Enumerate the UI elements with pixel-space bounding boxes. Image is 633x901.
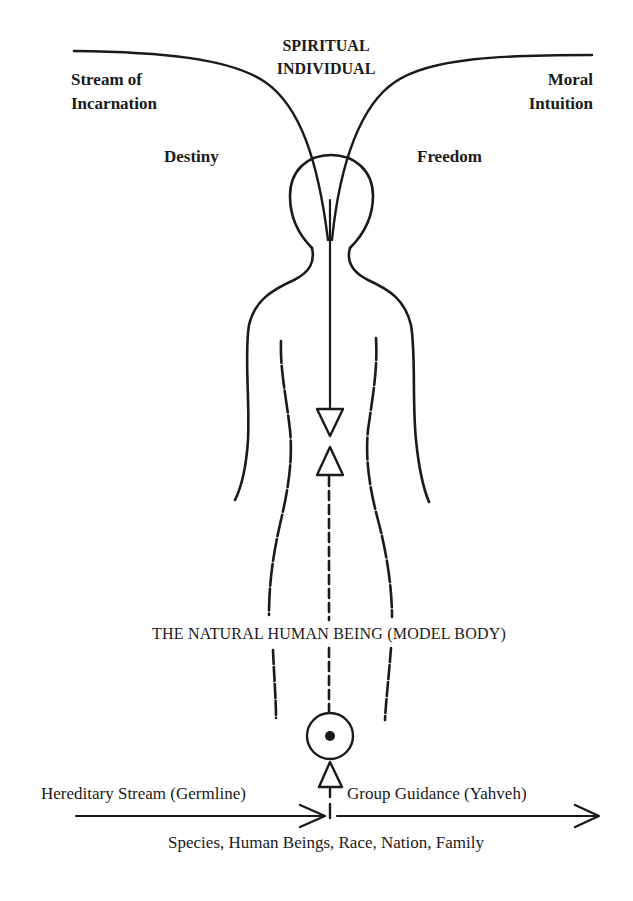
- left-inner-torso-line: [269, 341, 291, 615]
- right-shoulder-arm-outline: [349, 248, 429, 502]
- down-triangle-icon: [317, 409, 343, 436]
- freedom-label: Freedom: [417, 147, 482, 166]
- stream-of-incarnation-line2: Incarnation: [71, 94, 158, 113]
- right-inner-torso-line: [367, 338, 392, 617]
- bottom-caption: Species, Human Beings, Race, Nation, Fam…: [168, 833, 484, 852]
- body-label: THE NATURAL HUMAN BEING (MODEL BODY): [152, 625, 506, 643]
- left-shoulder-arm-outline: [235, 248, 313, 500]
- title-line2: INDIVIDUAL: [277, 60, 376, 77]
- moral-intuition-line1: Moral: [548, 70, 594, 89]
- title-line1: SPIRITUAL: [282, 37, 369, 54]
- right-leg-line: [385, 648, 391, 720]
- group-guidance-label: Group Guidance (Yahveh): [347, 784, 527, 803]
- left-leg-line: [273, 650, 276, 718]
- destiny-label: Destiny: [164, 147, 219, 166]
- small-up-triangle-icon: [319, 762, 342, 787]
- stream-of-incarnation-line1: Stream of: [71, 70, 142, 89]
- germ-nucleus-icon: [325, 731, 335, 741]
- human-being-diagram: THE NATURAL HUMAN BEING (MODEL BODY) SPI…: [0, 0, 633, 901]
- moral-intuition-line2: Intuition: [529, 94, 594, 113]
- hereditary-stream-label: Hereditary Stream (Germline): [41, 784, 246, 803]
- up-triangle-icon: [317, 447, 343, 475]
